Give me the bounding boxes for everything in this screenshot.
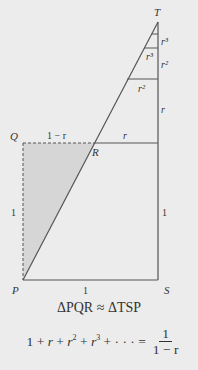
point-label-t: T bbox=[154, 6, 161, 18]
term-r3: r3 bbox=[91, 333, 100, 350]
term-r: r bbox=[48, 334, 53, 350]
fraction: 1 1 − r bbox=[150, 326, 182, 357]
point-label-p: P bbox=[11, 284, 19, 296]
plus: + bbox=[56, 334, 64, 350]
plus: + bbox=[80, 334, 88, 350]
label-r2-vertical: r² bbox=[161, 59, 169, 70]
label-right-lower: 1 bbox=[162, 207, 167, 218]
label-right-upper: r bbox=[161, 104, 165, 115]
label-r3-horizontal: r³ bbox=[146, 51, 154, 62]
point-label-s: S bbox=[164, 284, 170, 296]
label-r-right: r bbox=[123, 130, 127, 141]
label-ps: 1 bbox=[83, 285, 88, 296]
ellipsis: · · · bbox=[115, 334, 135, 350]
term-r2: r2 bbox=[67, 333, 76, 350]
equals: = bbox=[138, 334, 146, 350]
plus: + bbox=[37, 334, 45, 350]
point-label-r: R bbox=[91, 146, 99, 158]
label-qr: 1 − r bbox=[47, 130, 67, 141]
point-label-q: Q bbox=[10, 130, 18, 142]
similarity-text: ΔPQR ≈ ΔTSP bbox=[57, 300, 141, 315]
plus: + bbox=[104, 334, 112, 350]
label-r3-vertical: r³ bbox=[161, 36, 169, 47]
geometric-series-diagram: T Q R P S 1 − r r 1 1 1 r r² r³ r² r³ bbox=[0, 0, 198, 300]
term-1: 1 bbox=[27, 334, 34, 350]
fraction-numerator: 1 bbox=[159, 326, 172, 342]
label-r2-horizontal: r² bbox=[138, 83, 146, 94]
label-qp: 1 bbox=[11, 207, 16, 218]
series-formula: 1 + r + r2 + r3 + · · · = 1 1 − r bbox=[14, 326, 194, 357]
similarity-caption: ΔPQR ≈ ΔTSP bbox=[0, 300, 198, 316]
fraction-denominator: 1 − r bbox=[150, 342, 182, 357]
